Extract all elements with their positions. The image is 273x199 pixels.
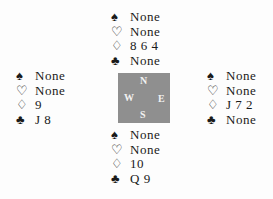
south-diamonds-cards: 10 <box>130 157 144 172</box>
east-hearts-row: ♡None <box>207 84 256 99</box>
club-icon: ♣ <box>16 113 35 128</box>
south-hearts-cards: None <box>130 143 160 158</box>
club-icon: ♣ <box>111 54 130 69</box>
heart-icon: ♡ <box>16 84 35 99</box>
south-clubs-cards: Q 9 <box>130 172 151 187</box>
west-hearts-row: ♡None <box>16 84 65 99</box>
south-diamonds-row: ♢10 <box>111 157 160 172</box>
compass-south-label: S <box>140 109 146 120</box>
spade-icon: ♠ <box>111 10 130 25</box>
heart-icon: ♡ <box>111 25 130 40</box>
north-hearts-row: ♡None <box>111 25 160 40</box>
east-spades-cards: None <box>226 69 256 84</box>
north-spades-cards: None <box>130 10 160 25</box>
spade-icon: ♠ <box>16 69 35 84</box>
south-spades-cards: None <box>130 128 160 143</box>
east-hearts-cards: None <box>226 84 256 99</box>
east-diamonds-cards: J 7 2 <box>226 98 253 113</box>
east-clubs-row: ♣None <box>207 113 256 128</box>
west-spades-cards: None <box>35 69 65 84</box>
east-diamonds-row: ♢J 7 2 <box>207 98 256 113</box>
west-diamonds-row: ♢9 <box>16 98 65 113</box>
south-clubs-row: ♣Q 9 <box>111 172 160 187</box>
east-spades-row: ♠None <box>207 69 256 84</box>
club-icon: ♣ <box>111 172 130 187</box>
north-clubs-cards: None <box>130 54 160 69</box>
west-spades-row: ♠None <box>16 69 65 84</box>
club-icon: ♣ <box>207 113 226 128</box>
west-hand: ♠None ♡None ♢9 ♣J 8 <box>16 69 65 127</box>
heart-icon: ♡ <box>207 84 226 99</box>
diamond-icon: ♢ <box>111 39 130 54</box>
compass-west-label: W <box>124 92 134 103</box>
diamond-icon: ♢ <box>207 98 226 113</box>
west-diamonds-cards: 9 <box>35 98 42 113</box>
south-spades-row: ♠None <box>111 128 160 143</box>
compass-box: N W E S <box>118 73 170 123</box>
diamond-icon: ♢ <box>111 157 130 172</box>
east-hand: ♠None ♡None ♢J 7 2 ♣None <box>207 69 256 127</box>
north-diamonds-row: ♢8 6 4 <box>111 39 160 54</box>
north-clubs-row: ♣None <box>111 54 160 69</box>
west-hearts-cards: None <box>35 84 65 99</box>
diamond-icon: ♢ <box>16 98 35 113</box>
compass-east-label: E <box>158 93 165 104</box>
west-clubs-row: ♣J 8 <box>16 113 65 128</box>
north-spades-row: ♠None <box>111 10 160 25</box>
spade-icon: ♠ <box>111 128 130 143</box>
north-hearts-cards: None <box>130 25 160 40</box>
south-hearts-row: ♡None <box>111 143 160 158</box>
heart-icon: ♡ <box>111 143 130 158</box>
south-hand: ♠None ♡None ♢10 ♣Q 9 <box>111 128 160 186</box>
north-hand: ♠None ♡None ♢8 6 4 ♣None <box>111 10 160 68</box>
west-clubs-cards: J 8 <box>35 113 51 128</box>
compass-north-label: N <box>140 75 147 86</box>
north-diamonds-cards: 8 6 4 <box>130 39 159 54</box>
spade-icon: ♠ <box>207 69 226 84</box>
east-clubs-cards: None <box>226 113 256 128</box>
